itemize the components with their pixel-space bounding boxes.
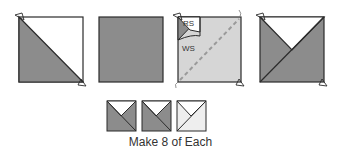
- thread-tail-bottom-icon: [175, 82, 178, 88]
- unit-dark-b: [142, 101, 171, 131]
- unit-dark-a: [107, 101, 136, 131]
- hst-square: [15, 13, 86, 86]
- piecing-diagram: RS WS: [0, 0, 341, 156]
- unit-light: [177, 101, 206, 131]
- thread-tail-top-icon: [239, 10, 241, 17]
- rs-label: RS: [183, 19, 194, 28]
- dark-square: [99, 17, 163, 82]
- stitch-square: RS WS: [173, 10, 244, 88]
- result-square: [256, 13, 327, 86]
- caption: Make 8 of Each: [0, 135, 341, 149]
- ws-label: WS: [182, 44, 195, 53]
